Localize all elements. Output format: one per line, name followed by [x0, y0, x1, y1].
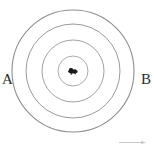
label-point-b: B — [141, 71, 151, 87]
label-point-a: A — [2, 71, 13, 87]
figure-background — [0, 0, 154, 147]
diagram-canvas: A B — [0, 0, 154, 147]
concentric-circles-figure: A B — [0, 0, 154, 147]
